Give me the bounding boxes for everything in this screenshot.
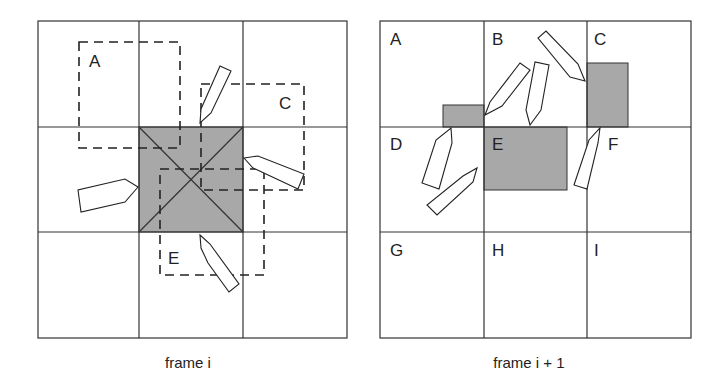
cell-label-e: E xyxy=(492,135,503,154)
arrow-shape-top xyxy=(200,66,231,123)
diagram-canvas: A C E frame i A B C D E F G H I xyxy=(0,0,716,380)
cell-label-d: D xyxy=(390,135,402,154)
shade-region-c xyxy=(587,63,628,127)
label-c: C xyxy=(279,94,291,113)
caption-frame-i: frame i xyxy=(165,354,211,371)
arrow-shape-left xyxy=(78,179,138,212)
cell-label-c: C xyxy=(594,30,606,49)
frame-i: A C E frame i xyxy=(38,21,347,371)
cell-label-g: G xyxy=(390,241,403,260)
cell-label-h: H xyxy=(492,241,504,260)
cell-label-f: F xyxy=(608,135,618,154)
cell-label-a: A xyxy=(390,30,402,49)
shade-region-a xyxy=(443,105,484,127)
arrow-shape-right xyxy=(244,156,304,189)
frame-i-plus-1: A B C D E F G H I frame i + 1 xyxy=(380,21,691,371)
cell-label-b: B xyxy=(492,30,503,49)
caption-frame-i-plus-1: frame i + 1 xyxy=(493,354,564,371)
arrow-shape-d1 xyxy=(422,128,452,189)
cell-label-i: I xyxy=(594,241,599,260)
label-a: A xyxy=(89,52,101,71)
arrow-shape-b1 xyxy=(485,63,530,115)
label-e: E xyxy=(168,249,179,268)
arrow-shape-bottom xyxy=(200,235,239,292)
